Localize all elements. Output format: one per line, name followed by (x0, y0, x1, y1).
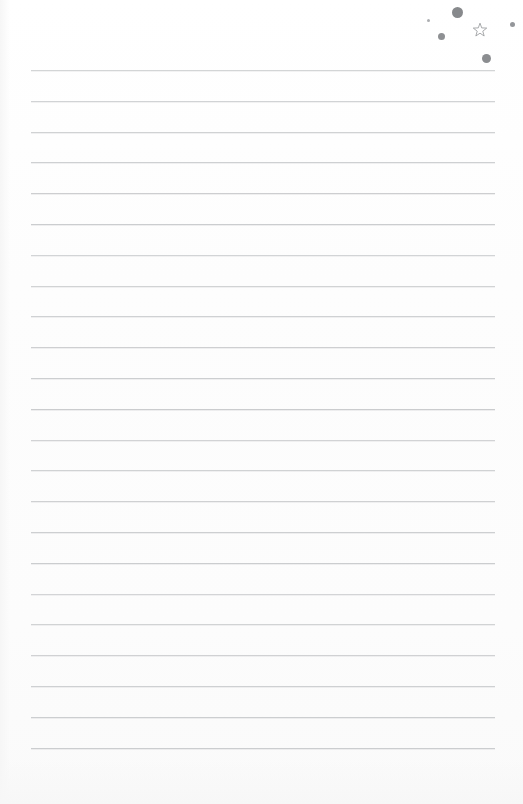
dot-large-icon (452, 7, 463, 18)
dot-medium-icon (438, 33, 445, 40)
dot-small-right-icon (510, 22, 515, 27)
notepad-page (0, 0, 523, 804)
corner-decorations-group (0, 0, 523, 804)
dot-bottom-icon (482, 54, 491, 63)
dot-tiny-icon (427, 19, 430, 22)
star-icon (472, 22, 488, 38)
